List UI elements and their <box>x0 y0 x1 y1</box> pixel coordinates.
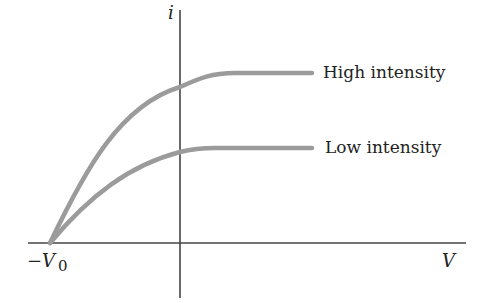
x-axis-label: V <box>442 250 455 271</box>
subscript-zero: 0 <box>58 257 68 275</box>
legend-low-intensity: Low intensity <box>325 137 441 157</box>
minus-sign: − <box>27 250 42 271</box>
stopping-potential-label: −V0 <box>27 250 68 275</box>
high-intensity-curve <box>50 73 312 243</box>
y-axis-label: i <box>168 2 174 23</box>
v-symbol: V <box>42 250 55 271</box>
low-intensity-curve <box>50 148 312 243</box>
legend-high-intensity: High intensity <box>323 62 445 82</box>
